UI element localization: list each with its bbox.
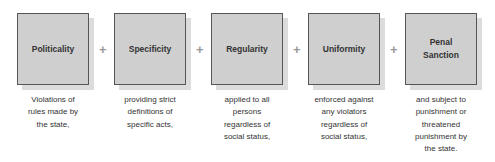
- description-line: regardless of: [296, 119, 392, 131]
- description-line: punishment by: [393, 131, 489, 143]
- box-label: Politicality: [32, 43, 75, 56]
- description-line: rules made by: [5, 106, 101, 118]
- description: and subject to punishment or threatened …: [393, 94, 489, 155]
- box-label-line: Penal: [423, 36, 459, 49]
- description-line: definitions of: [102, 106, 198, 118]
- description-line: social status,: [199, 131, 295, 143]
- plus-operator: +: [99, 42, 107, 57]
- box-specificity: Specificity: [114, 13, 186, 85]
- plus-operator: +: [293, 42, 301, 57]
- description-line: Violations of: [5, 94, 101, 106]
- description: applied to all persons regardless of soc…: [199, 94, 295, 143]
- description-line: the state,: [5, 119, 101, 131]
- description-line: social status,: [296, 131, 392, 143]
- box-uniformity: Uniformity: [308, 13, 380, 85]
- description-line: providing strict: [102, 94, 198, 106]
- box-label-line: Sanction: [423, 49, 459, 62]
- description-line: punishment or: [393, 106, 489, 118]
- box-label: Specificity: [129, 43, 172, 56]
- description-line: applied to all: [199, 94, 295, 106]
- box-penal-sanction: Penal Sanction: [405, 13, 477, 85]
- description: providing strict definitions of specific…: [102, 94, 198, 131]
- box-politicality: Politicality: [17, 13, 89, 85]
- description-line: threatened: [393, 119, 489, 131]
- box-label: Penal Sanction: [423, 36, 459, 62]
- box-label: Uniformity: [323, 43, 366, 56]
- description-line: enforced against: [296, 94, 392, 106]
- description: enforced against any violators regardles…: [296, 94, 392, 143]
- description-line: specific acts,: [102, 119, 198, 131]
- description-line: any violators: [296, 106, 392, 118]
- box-label: Regularity: [226, 43, 268, 56]
- description-line: persons: [199, 106, 295, 118]
- description-line: the state.: [393, 143, 489, 155]
- box-regularity: Regularity: [211, 13, 283, 85]
- description: Violations of rules made by the state,: [5, 94, 101, 131]
- description-line: and subject to: [393, 94, 489, 106]
- plus-operator: +: [196, 42, 204, 57]
- description-line: regardless of: [199, 119, 295, 131]
- plus-operator: +: [390, 42, 398, 57]
